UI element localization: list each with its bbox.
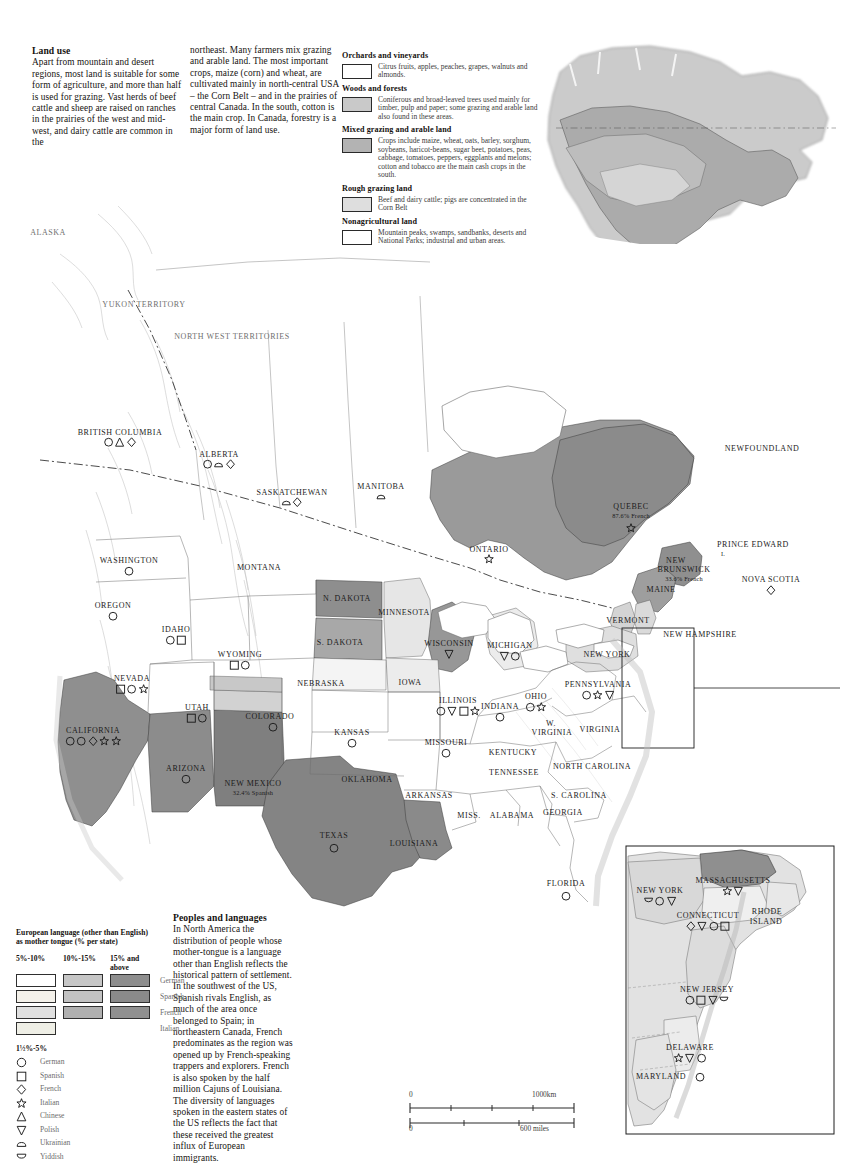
circle-icon [241, 655, 251, 673]
map-label: RHODE [752, 907, 782, 916]
map-label: OKLAHOMA [341, 775, 392, 784]
triangle-down-icon [447, 701, 457, 719]
triangle-down-icon [734, 881, 744, 899]
map-label: TENNESSEE [489, 768, 539, 777]
map-label: VIRGINIA [580, 725, 621, 734]
language-symbol-label: Ukrainian [40, 1138, 70, 1147]
circle-icon [685, 990, 695, 1008]
map-symbol-group [268, 717, 278, 735]
scale-bar: 0 1000km 0 600 miles [408, 1092, 576, 1138]
map-label: ARKANSAS [405, 791, 453, 800]
map-label: KENTUCKY [489, 748, 537, 757]
circle-icon [709, 916, 719, 934]
landuse-legend-swatch [342, 64, 372, 79]
circle-icon [165, 630, 175, 648]
language-symbol-label: Yiddish [40, 1152, 64, 1161]
star-icon [484, 549, 494, 567]
semi-up-icon [376, 486, 386, 504]
language-symbol-label: Chinese [40, 1111, 64, 1120]
map-label: ALABAMA [490, 811, 534, 820]
language-symbol-row: Yiddish [16, 1149, 186, 1163]
landuse-legend-description: Citrus fruits, apples, peaches, grapes, … [378, 63, 538, 80]
circle-icon [124, 561, 134, 579]
star-icon [99, 731, 109, 749]
map-symbol-group [495, 707, 505, 725]
map-label: S. CAROLINA [551, 791, 607, 800]
semi-down-icon [719, 990, 729, 1008]
landuse-article-col1: Land use Apart from mountain and desert … [32, 45, 182, 149]
language-swatch-1 [16, 990, 56, 1003]
map-symbol-group [115, 679, 148, 697]
map-symbol-group [626, 518, 636, 536]
language-swatch-2 [63, 1006, 103, 1019]
landuse-legend-item: Mixed grazing and arable landCrops inclu… [342, 126, 538, 180]
square-icon [115, 679, 125, 697]
circle-icon [436, 701, 446, 719]
map-label: GEORGIA [543, 808, 583, 817]
landuse-legend-description: Coniferous and broad-leaved trees used m… [378, 96, 538, 122]
language-swatch-label: French [160, 1008, 181, 1017]
scale-km-max: 1000km [532, 1090, 556, 1099]
language-swatch-3 [110, 1022, 150, 1035]
language-swatch-label: Italian [160, 1024, 179, 1033]
language-swatch-3 [110, 1006, 150, 1019]
circle-icon [198, 708, 208, 726]
map-label: NEW [666, 556, 686, 565]
semi-up-icon [281, 492, 291, 510]
map-symbol-group [441, 743, 451, 761]
triangle-down-icon [666, 891, 676, 909]
circle-icon [696, 1048, 706, 1066]
map-label: MAINE [647, 585, 676, 594]
diamond-icon [225, 454, 235, 472]
map-symbol-group [444, 644, 454, 662]
map-symbol-group [561, 886, 571, 904]
landuse-legend-description: Crops include maize, wheat, oats, barley… [378, 137, 538, 180]
map-label: ALASKA [30, 228, 66, 237]
language-symbol-row: Polish [16, 1122, 186, 1136]
map-label: NEWFOUNDLAND [725, 444, 800, 453]
diamond-icon [686, 916, 696, 934]
map-label: NORTH WEST TERRITORIES [174, 332, 289, 341]
map-symbol-group [281, 492, 303, 510]
landuse-body-col1: Apart from mountain and desert regions, … [32, 57, 181, 147]
circle-icon [181, 769, 191, 787]
language-legend-row: French [16, 1005, 186, 1021]
landuse-legend: Orchards and vineyardsCitrus fruits, app… [342, 52, 538, 251]
triangle-down-icon [708, 990, 718, 1008]
map-label: PRINCE EDWARD [717, 540, 789, 549]
map-label: 33.6% French [665, 575, 703, 582]
map-label: N. DAKOTA [323, 594, 371, 603]
landuse-legend-title: Rough grazing land [342, 185, 538, 194]
language-symbol-row: French [16, 1082, 186, 1096]
circle-icon [695, 1067, 705, 1085]
circle-icon [511, 646, 521, 664]
class-header-0: 5%-10% [16, 954, 63, 972]
map-symbol-group [229, 655, 251, 673]
circle-icon [525, 697, 535, 715]
language-swatch-3 [110, 990, 150, 1003]
map-label: BRUNSWICK [658, 565, 711, 574]
landuse-legend-title: Woods and forests [342, 85, 538, 94]
language-symbol-label: French [40, 1084, 61, 1093]
peoples-heading: Peoples and languages [173, 912, 293, 923]
circle-icon [65, 731, 75, 749]
circle-icon [495, 707, 505, 725]
landuse-legend-swatch [342, 197, 372, 212]
map-symbol-group [686, 916, 731, 934]
class-header-1: 10%-15% [63, 954, 110, 972]
triangle-down-icon [499, 646, 509, 664]
landuse-legend-item: Orchards and vineyardsCitrus fruits, app… [342, 52, 538, 80]
map-label: QUEBEC [613, 502, 648, 511]
circle-icon [76, 731, 86, 749]
map-label: IOWA [398, 678, 421, 687]
language-symbol-row: Chinese [16, 1109, 186, 1123]
map-symbol-group [124, 561, 134, 579]
language-legend-row: Spanish [16, 989, 186, 1005]
landuse-legend-title: Mixed grazing and arable land [342, 126, 538, 135]
map-symbol-group [347, 733, 357, 751]
language-swatch-2 [63, 1022, 103, 1035]
landuse-legend-title: Orchards and vineyards [342, 52, 538, 61]
square-icon [696, 990, 706, 1008]
scale-mi-max: 600 miles [520, 1124, 549, 1133]
map-symbol-group [685, 990, 730, 1008]
